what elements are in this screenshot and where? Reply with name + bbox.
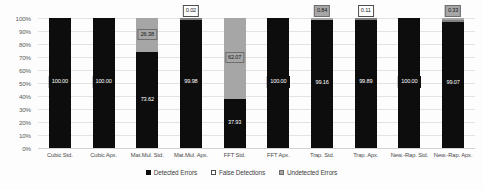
y-axis-tick-label: 20% xyxy=(19,119,31,126)
bar-group[interactable]: 99.160.84 xyxy=(311,18,333,148)
y-axis-tick-label: 10% xyxy=(19,132,31,139)
data-label: 100.00 xyxy=(92,76,114,88)
legend-label: Undetected Errors xyxy=(287,169,337,176)
legend-label: Detected Errors xyxy=(154,169,197,176)
y-axis-tick-label: 0% xyxy=(22,145,31,152)
data-label: 100.00 xyxy=(267,76,289,88)
bar-group[interactable]: 99.890.11 xyxy=(355,18,377,148)
bar-group[interactable]: 100.00 xyxy=(267,18,289,148)
y-axis-tick-label: 80% xyxy=(19,41,31,48)
bar-group[interactable]: 99.070.600.33 xyxy=(442,18,464,148)
y-axis-tick-label: 100% xyxy=(16,15,31,22)
chart-legend: Detected ErrorsFalse DetectionsUndetecte… xyxy=(0,169,483,176)
data-label: 0.02 xyxy=(183,5,199,17)
y-axis: 0%10%20%30%40%50%60%70%80%90%100% xyxy=(0,18,34,148)
gridline xyxy=(38,148,475,149)
legend-item[interactable]: Undetected Errors xyxy=(279,169,337,176)
legend-swatch-icon xyxy=(211,170,216,175)
data-label: 99.89 xyxy=(356,76,375,88)
data-label: 100.00 xyxy=(49,76,71,88)
bar-stack xyxy=(224,18,246,148)
bar-group[interactable]: 73.6226.38 xyxy=(136,18,158,148)
data-label: 62.07 xyxy=(225,52,244,64)
bar-group[interactable]: 100.00 xyxy=(398,18,420,148)
data-label: 100.00 xyxy=(398,76,420,88)
data-label: 37.93 xyxy=(225,117,244,129)
legend-item[interactable]: Detected Errors xyxy=(146,169,197,176)
bar-group[interactable]: 37.9362.07 xyxy=(224,18,246,148)
data-label: 0.33 xyxy=(445,5,461,17)
data-label: 0.84 xyxy=(314,5,330,17)
legend-swatch-icon xyxy=(146,170,151,175)
legend-label: False Detections xyxy=(219,169,265,176)
data-label: 26.38 xyxy=(138,29,157,41)
y-axis-tick-label: 60% xyxy=(19,67,31,74)
bar-group[interactable]: 99.980.02 xyxy=(180,18,202,148)
data-label: 99.16 xyxy=(312,77,331,89)
stacked-bar-chart: 0%10%20%30%40%50%60%70%80%90%100% Detect… xyxy=(0,0,483,190)
bar-group[interactable]: 100.00 xyxy=(49,18,71,148)
y-axis-tick-label: 50% xyxy=(19,80,31,87)
y-axis-tick-label: 30% xyxy=(19,106,31,113)
legend-item[interactable]: False Detections xyxy=(211,169,265,176)
data-label: 99.07 xyxy=(444,77,463,89)
data-label: 0.11 xyxy=(358,5,374,17)
y-axis-tick-label: 70% xyxy=(19,54,31,61)
legend-swatch-icon xyxy=(279,170,284,175)
bar-group[interactable]: 100.00 xyxy=(93,18,115,148)
y-axis-tick-label: 90% xyxy=(19,28,31,35)
y-axis-tick-label: 40% xyxy=(19,93,31,100)
x-axis-tick-label: New.-Rap. Apx. xyxy=(422,152,483,158)
data-label: 99.98 xyxy=(181,76,200,88)
data-label: 73.62 xyxy=(138,94,157,106)
